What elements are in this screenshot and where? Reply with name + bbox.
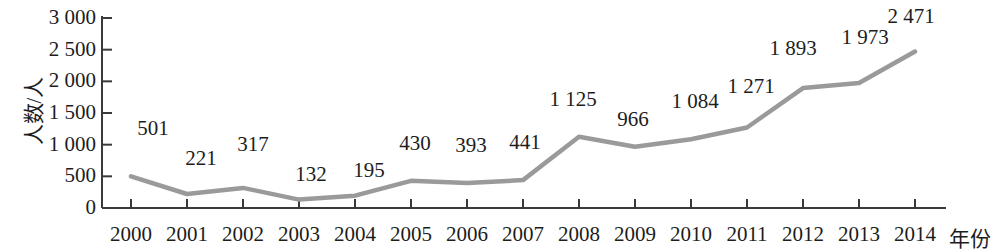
- data-point-label: 2 471: [887, 4, 934, 29]
- line-chart: 人数/人 年份 05001 0001 5002 0002 5003 000 20…: [0, 0, 996, 249]
- data-series-line: [131, 52, 915, 200]
- x-tick-label: 2012: [771, 222, 835, 247]
- data-point-label: 1 125: [549, 87, 596, 112]
- x-axis-title: 年份: [949, 222, 991, 249]
- data-point-label: 317: [237, 132, 269, 157]
- data-point-label: 430: [399, 131, 431, 156]
- y-axis-ticks: [102, 18, 112, 208]
- x-tick-label: 2013: [827, 222, 891, 247]
- x-tick-label: 2006: [435, 222, 499, 247]
- data-point-label: 221: [185, 146, 217, 171]
- x-tick-label: 2010: [659, 222, 723, 247]
- data-point-label: 501: [137, 116, 169, 141]
- y-tick-label: 0: [8, 195, 96, 220]
- x-tick-label: 2011: [715, 222, 779, 247]
- y-tick-label: 1 500: [8, 100, 96, 125]
- x-tick-label: 2009: [603, 222, 667, 247]
- data-point-label: 1 973: [841, 25, 888, 50]
- x-tick-label: 2005: [379, 222, 443, 247]
- y-tick-label: 2 000: [8, 68, 96, 93]
- data-point-label: 1 271: [727, 74, 774, 99]
- data-point-label: 1 893: [769, 36, 816, 61]
- x-tick-label: 2007: [491, 222, 555, 247]
- x-tick-label: 2001: [155, 222, 219, 247]
- data-point-label: 393: [455, 133, 487, 158]
- data-point-label: 441: [509, 130, 541, 155]
- y-tick-label: 3 000: [8, 5, 96, 30]
- y-tick-label: 2 500: [8, 37, 96, 62]
- x-axis-ticks: [131, 199, 915, 208]
- y-tick-label: 1 000: [8, 132, 96, 157]
- x-tick-label: 2014: [883, 222, 947, 247]
- data-point-label: 1 084: [671, 89, 718, 114]
- x-tick-label: 2003: [267, 222, 331, 247]
- data-point-label: 195: [353, 158, 385, 183]
- data-point-label: 966: [617, 107, 649, 132]
- x-tick-label: 2002: [211, 222, 275, 247]
- data-point-label: 132: [295, 162, 327, 187]
- x-tick-label: 2000: [99, 222, 163, 247]
- y-tick-label: 500: [8, 163, 96, 188]
- x-tick-label: 2008: [547, 222, 611, 247]
- x-tick-label: 2004: [323, 222, 387, 247]
